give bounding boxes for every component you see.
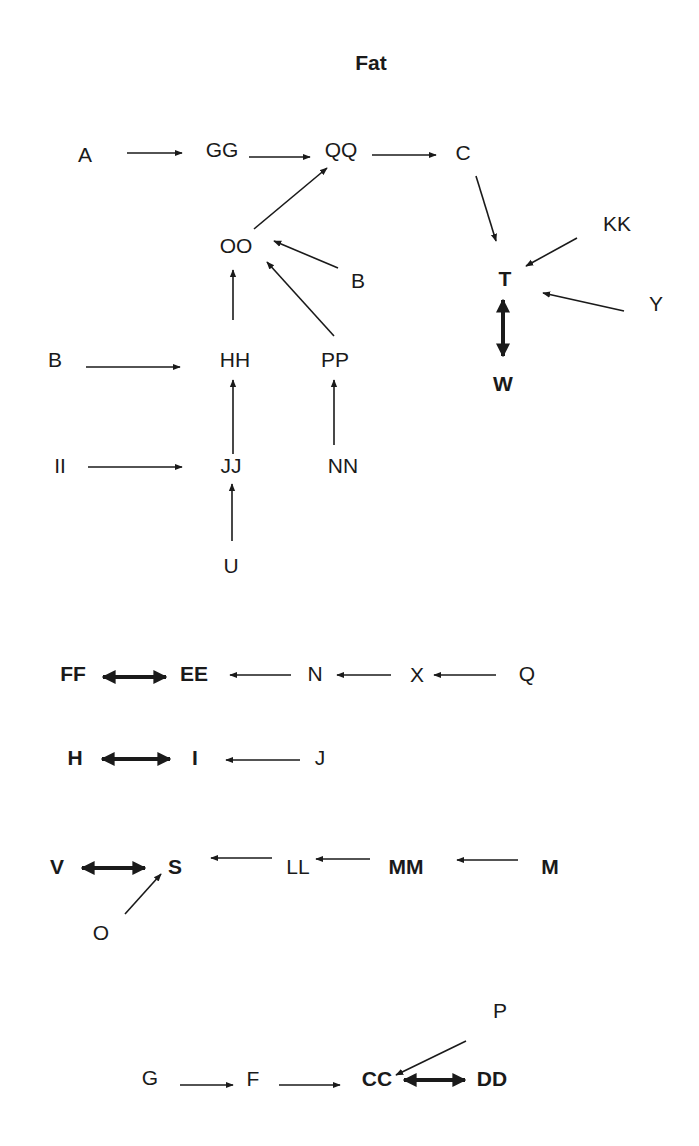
node-cc: CC bbox=[362, 1067, 392, 1090]
node-a: A bbox=[78, 143, 92, 166]
node-m: M bbox=[541, 855, 559, 878]
arrow-oo-to-qq bbox=[254, 168, 327, 229]
node-b2: B bbox=[48, 348, 62, 371]
node-mm: MM bbox=[389, 855, 424, 878]
node-ee: EE bbox=[180, 662, 208, 685]
node-q: Q bbox=[519, 662, 535, 685]
node-ff: FF bbox=[60, 662, 86, 685]
node-nn: NN bbox=[328, 454, 358, 477]
node-f: F bbox=[247, 1067, 260, 1090]
node-w: W bbox=[493, 372, 513, 395]
node-c: C bbox=[455, 141, 470, 164]
arrow-b1-to-oo bbox=[274, 241, 338, 268]
node-h: H bbox=[67, 746, 82, 769]
nodes-layer: AGGQQCOOBKKTYWBHHPPIIJJNNUFFEENXQHIJVSLL… bbox=[48, 138, 663, 1090]
node-kk: KK bbox=[603, 212, 631, 235]
node-j: J bbox=[315, 746, 326, 769]
arrow-c-to-t bbox=[476, 176, 496, 241]
node-x: X bbox=[410, 663, 424, 686]
node-g: G bbox=[142, 1066, 158, 1089]
arrow-kk-to-t bbox=[526, 238, 577, 266]
edges-layer bbox=[82, 153, 624, 1085]
node-oo: OO bbox=[220, 234, 253, 257]
node-hh: HH bbox=[220, 348, 250, 371]
arrow-p-to-cc bbox=[396, 1041, 466, 1075]
node-gg: GG bbox=[206, 138, 239, 161]
node-n: N bbox=[307, 662, 322, 685]
node-t: T bbox=[499, 267, 512, 290]
arrow-pp-to-oo bbox=[267, 262, 334, 336]
node-o: O bbox=[93, 921, 109, 944]
node-b1: B bbox=[351, 269, 365, 292]
diagram-title: Fat bbox=[355, 51, 387, 74]
arrow-o-to-s bbox=[125, 874, 161, 914]
node-ll: LL bbox=[286, 855, 309, 878]
node-p: P bbox=[493, 999, 507, 1022]
node-dd: DD bbox=[477, 1067, 507, 1090]
node-jj: JJ bbox=[221, 454, 242, 477]
diagram-canvas: Fat AGGQQCOOBKKTYWBHHPPIIJJNNUFFEENXQHIJ… bbox=[0, 0, 699, 1146]
node-v: V bbox=[50, 855, 64, 878]
node-y: Y bbox=[649, 292, 663, 315]
node-s: S bbox=[168, 855, 182, 878]
node-i: I bbox=[192, 746, 198, 769]
node-u: U bbox=[223, 554, 238, 577]
arrow-y-to-t bbox=[543, 293, 624, 311]
node-qq: QQ bbox=[325, 138, 358, 161]
node-pp: PP bbox=[321, 348, 349, 371]
node-ii: II bbox=[54, 454, 66, 477]
